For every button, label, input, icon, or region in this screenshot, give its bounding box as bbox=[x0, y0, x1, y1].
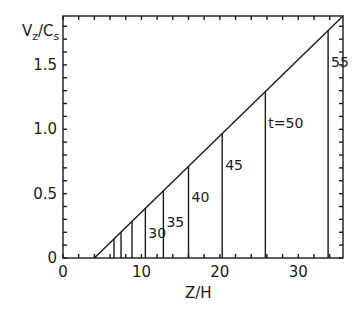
y-tick-label: 0 bbox=[47, 249, 57, 267]
time-marker-label: t=50 bbox=[268, 115, 303, 131]
y-tick-label: 0.5 bbox=[33, 185, 57, 203]
x-tick-label: 20 bbox=[210, 263, 229, 281]
axis-ticks bbox=[63, 16, 343, 258]
velocity-chart: 010203000.51.01.5 30354045t=5055 Vz/Cs Z… bbox=[0, 0, 364, 312]
x-tick-label: 10 bbox=[132, 263, 151, 281]
x-tick-label: 0 bbox=[58, 263, 68, 281]
x-tick-label: 30 bbox=[289, 263, 308, 281]
y-tick-label: 1.5 bbox=[33, 56, 57, 74]
time-marker-label: 45 bbox=[225, 157, 243, 173]
time-marker-label: 40 bbox=[191, 189, 209, 205]
time-marker-label: 35 bbox=[166, 214, 184, 230]
time-labels: 30354045t=5055 bbox=[148, 54, 349, 241]
time-marker-label: 55 bbox=[331, 54, 349, 70]
y-axis-label: Vz/Cs bbox=[22, 22, 60, 43]
y-tick-label: 1.0 bbox=[33, 120, 57, 138]
time-marker-label: 30 bbox=[148, 225, 166, 241]
x-axis-label: Z/H bbox=[185, 284, 212, 302]
data-lines bbox=[94, 16, 343, 258]
plot-frame bbox=[63, 16, 343, 258]
